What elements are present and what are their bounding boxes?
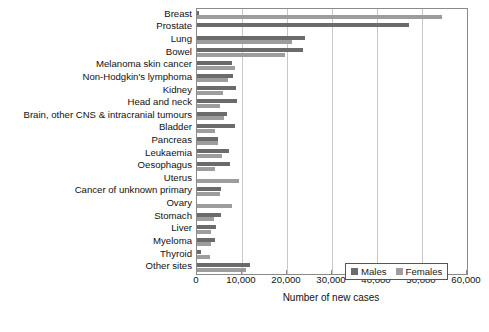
y-axis-label: Other sites [0, 261, 192, 271]
bar-females [197, 116, 224, 120]
y-axis-label: Head and neck [0, 97, 192, 107]
x-tick-mark [286, 270, 287, 274]
legend-swatch-icon [396, 268, 403, 275]
plot-area [196, 8, 468, 275]
bar-males [197, 124, 235, 128]
bar-females [197, 66, 235, 70]
y-axis-label: Pancreas [0, 135, 192, 145]
bar-females [197, 217, 214, 221]
bar-males [197, 23, 409, 27]
chart-legend: MalesFemales [345, 263, 448, 280]
y-axis-label: Bladder [0, 122, 192, 132]
x-tick-mark [241, 270, 242, 274]
bar-females [197, 104, 220, 108]
bar-males [197, 238, 215, 242]
x-axis-title: Number of new cases [196, 292, 466, 303]
y-axis-label: Myeloma [0, 236, 192, 246]
legend-swatch-icon [351, 268, 358, 275]
bar-females [197, 179, 239, 183]
bar-females [197, 91, 223, 95]
bar-females [197, 242, 211, 246]
bar-females [197, 78, 228, 82]
bar-males [197, 11, 199, 15]
bar-females [197, 268, 246, 272]
y-axis-label: Melanoma skin cancer [0, 59, 192, 69]
bar-series-container [197, 9, 467, 274]
x-tick-label: 10,000 [226, 274, 255, 285]
bar-males [197, 61, 232, 65]
bar-males [197, 225, 216, 229]
bar-males [197, 36, 305, 40]
bar-males [197, 74, 233, 78]
bar-females [197, 192, 220, 196]
bar-males [197, 86, 236, 90]
legend-label: Females [406, 266, 443, 277]
y-axis-label: Uterus [0, 173, 192, 183]
x-tick-label: 30,000 [316, 274, 345, 285]
bar-females [197, 204, 232, 208]
y-axis-label: Brain, other CNS & intracranial tumours [0, 110, 192, 120]
bar-males [197, 137, 218, 141]
y-axis-label: Non-Hodgkin's lymphoma [0, 72, 192, 82]
bar-females [197, 167, 215, 171]
x-tick-label: 20,000 [271, 274, 300, 285]
bar-chart: BreastProstateLungBowelMelanoma skin can… [0, 0, 489, 332]
bar-males [197, 187, 221, 191]
x-tick-label: 0 [193, 274, 198, 285]
x-tick-mark [331, 270, 332, 274]
x-tick-label: 60,000 [451, 274, 480, 285]
bar-females [197, 53, 285, 57]
bar-males [197, 112, 227, 116]
y-axis-label: Thyroid [0, 249, 192, 259]
bar-females [197, 40, 292, 44]
y-axis-label: Ovary [0, 198, 192, 208]
legend-label: Males [361, 266, 387, 277]
bar-females [197, 141, 218, 145]
bar-females [197, 230, 211, 234]
y-axis-category-labels: BreastProstateLungBowelMelanoma skin can… [0, 8, 192, 273]
y-axis-label: Kidney [0, 85, 192, 95]
y-axis-label: Oesophagus [0, 160, 192, 170]
bar-males [197, 162, 230, 166]
bar-males [197, 213, 221, 217]
y-axis-label: Liver [0, 223, 192, 233]
x-tick-mark [466, 270, 467, 274]
y-axis-label: Cancer of unknown primary [0, 185, 192, 195]
bar-females [197, 154, 222, 158]
bar-females [197, 129, 215, 133]
bar-males [197, 99, 237, 103]
bar-females [197, 15, 442, 19]
bar-males [197, 149, 229, 153]
y-axis-label: Bowel [0, 47, 192, 57]
y-axis-label: Prostate [0, 21, 192, 31]
y-axis-label: Leukaemia [0, 148, 192, 158]
y-axis-label: Breast [0, 9, 192, 19]
legend-entry-females[interactable]: Females [396, 266, 443, 277]
y-axis-label: Lung [0, 34, 192, 44]
bar-females [197, 255, 210, 259]
legend-entry-males[interactable]: Males [351, 266, 387, 277]
y-axis-label: Stomach [0, 211, 192, 221]
bar-males [197, 48, 303, 52]
bar-males [197, 250, 201, 254]
x-tick-mark [196, 270, 197, 274]
bar-males [197, 263, 250, 267]
